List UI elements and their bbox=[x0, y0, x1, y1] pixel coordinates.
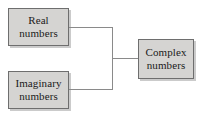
connector-imaginary-to-junction bbox=[69, 89, 113, 90]
node-imaginary-numbers-label-line2: numbers bbox=[19, 90, 58, 103]
connector-real-to-junction bbox=[69, 27, 113, 28]
node-complex-numbers: Complex numbers bbox=[138, 39, 194, 79]
connector-junction-to-complex bbox=[112, 58, 138, 59]
node-imaginary-numbers: Imaginary numbers bbox=[8, 71, 69, 109]
node-imaginary-numbers-label-line1: Imaginary bbox=[15, 77, 61, 90]
node-complex-numbers-label-line2: numbers bbox=[147, 59, 186, 72]
number-sets-diagram: Real numbers Imaginary numbers Complex n… bbox=[0, 0, 205, 118]
node-real-numbers: Real numbers bbox=[8, 8, 69, 46]
node-real-numbers-label-line1: Real bbox=[28, 14, 49, 27]
node-complex-numbers-label-line1: Complex bbox=[145, 46, 186, 59]
node-real-numbers-label-line2: numbers bbox=[19, 27, 58, 40]
